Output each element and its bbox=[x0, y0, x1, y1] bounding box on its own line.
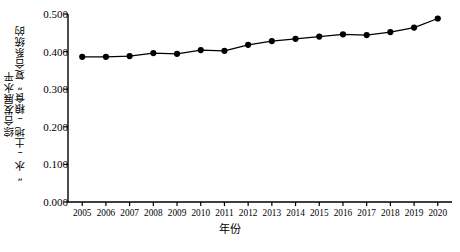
x-axis-tick-label: 2018 bbox=[381, 208, 400, 218]
x-axis-tick-label: 2020 bbox=[428, 208, 447, 218]
x-axis-tick-label: 2012 bbox=[239, 208, 258, 218]
x-axis-tick-label: 2014 bbox=[286, 208, 305, 218]
x-axis-tick-label: 2005 bbox=[73, 208, 92, 218]
x-axis-tick-label: 2010 bbox=[191, 208, 210, 218]
x-axis-tick-label: 2008 bbox=[144, 208, 163, 218]
x-axis-tick-labels: 2005200620072008200920102011201220132014… bbox=[0, 0, 460, 252]
x-axis-tick-label: 2006 bbox=[97, 208, 116, 218]
x-axis-tick-label: 2009 bbox=[168, 208, 187, 218]
x-axis-tick-label: 2019 bbox=[405, 208, 424, 218]
x-axis-tick-label: 2017 bbox=[357, 208, 376, 218]
x-axis-tick-label: 2015 bbox=[310, 208, 329, 218]
figure-caption bbox=[0, 243, 460, 252]
x-axis-tick-label: 2016 bbox=[334, 208, 353, 218]
chart-figure: 综合发展水平 “水–土地–粮食”复合系统的 0.5000.4000.3000.2… bbox=[0, 0, 460, 252]
x-axis-tick-label: 2011 bbox=[215, 208, 233, 218]
x-axis-title: 年份 bbox=[0, 220, 460, 236]
x-axis-tick-label: 2013 bbox=[263, 208, 282, 218]
x-axis-tick-label: 2007 bbox=[120, 208, 139, 218]
